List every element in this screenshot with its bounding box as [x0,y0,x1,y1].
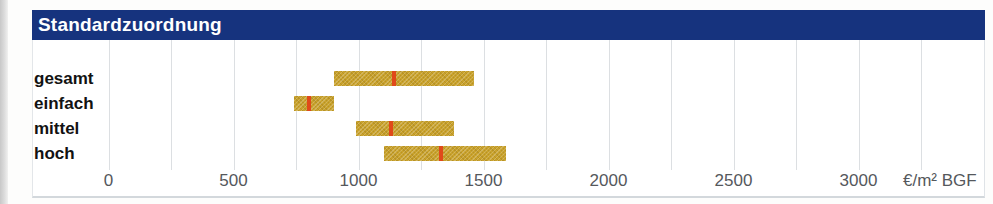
x-tick-2000: 2000 [590,171,628,191]
chart-title: Standardzuordnung [32,10,985,40]
gridline-3000 [859,40,860,170]
x-tick-500: 500 [219,171,247,191]
gridline-250 [171,40,172,170]
gridline-2750 [796,40,797,170]
median-marker-gesamt [392,71,396,86]
x-axis: €/m² BGF 050010001500200025003000 [33,170,984,194]
category-label-mittel: mittel [34,120,79,137]
category-label-hoch: hoch [34,145,75,162]
category-label-einfach: einfach [34,95,94,112]
page-edge-shadow [0,0,8,204]
median-marker-hoch [439,146,443,161]
chart-header-bar: Standardzuordnung [32,10,985,40]
axis-unit-label: €/m² BGF [903,171,977,191]
range-bar-mittel [356,121,454,136]
x-tick-1000: 1000 [340,171,378,191]
scanned-chart-page: Standardzuordnung €/m² BGF 0500100015002… [0,0,993,204]
x-tick-0: 0 [104,171,113,191]
median-marker-mittel [389,121,393,136]
gridline-1000 [359,40,360,170]
category-label-gesamt: gesamt [34,70,94,87]
range-bar-gesamt [334,71,474,86]
gridline-2250 [671,40,672,170]
gridline-3250 [921,40,922,170]
x-tick-2500: 2500 [715,171,753,191]
plot-area [33,40,984,170]
gridline-2500 [734,40,735,170]
x-tick-3000: 3000 [840,171,878,191]
range-bar-hoch [384,146,507,161]
standardzuordnung-chart: Standardzuordnung €/m² BGF 0500100015002… [32,10,985,198]
gridline-1750 [546,40,547,170]
gridline-0 [109,40,110,170]
gridline-2000 [609,40,610,170]
gridline-500 [234,40,235,170]
x-tick-1500: 1500 [465,171,503,191]
range-bar-einfach [294,96,334,111]
median-marker-einfach [307,96,311,111]
